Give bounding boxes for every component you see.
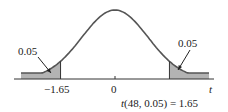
axis-label-t: t: [209, 83, 213, 95]
left-tail-shaded-region: [21, 61, 61, 79]
tick-label-zero: 0: [111, 83, 117, 95]
right-tail-shaded-region: [169, 61, 209, 79]
t-distribution-diagram: 0.05 0.05 −1.65 0 t t(48, 0.05) = 1.65: [0, 0, 228, 112]
right-area-label: 0.05: [178, 37, 198, 49]
tick-label-neg-critical: −1.65: [44, 83, 70, 95]
left-area-label: 0.05: [18, 45, 38, 57]
annotation-rest: (48, 0.05) = 1.65: [124, 97, 199, 110]
critical-value-annotation: t(48, 0.05) = 1.65: [121, 97, 199, 110]
